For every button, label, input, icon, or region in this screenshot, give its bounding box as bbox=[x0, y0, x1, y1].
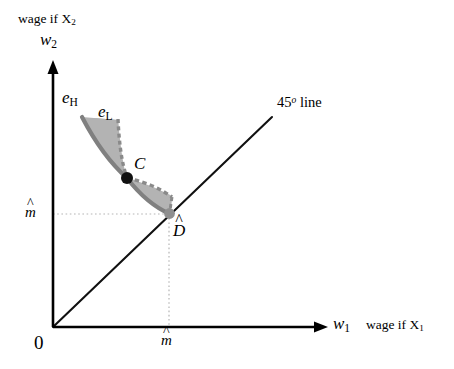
line45-suffix: line bbox=[296, 94, 321, 110]
x-axis-caption-subscript: 1 bbox=[419, 323, 424, 333]
curve-label-eh: eH bbox=[62, 89, 78, 108]
origin-label: 0 bbox=[34, 333, 44, 352]
diagram-svg bbox=[0, 0, 454, 369]
point-label-d-hat: ^D bbox=[173, 222, 185, 239]
x-axis-tick-label-m-hat: ^m bbox=[161, 333, 172, 348]
x-axis-arrowhead bbox=[314, 322, 328, 333]
y-axis-tick-label-m-hat: ^m bbox=[25, 205, 36, 220]
m-hat-x-accent: ^ bbox=[161, 324, 172, 338]
d-hat-accent: ^ bbox=[173, 212, 185, 228]
curve-label-eh-subscript: H bbox=[70, 96, 78, 109]
y-axis-caption-subscript: 2 bbox=[71, 17, 76, 27]
figure-canvas: wage if X2 w2 w1 wage if X1 0 eH eL C ^D… bbox=[0, 0, 454, 369]
curve-label-el: eL bbox=[98, 103, 113, 122]
m-hat-y-accent: ^ bbox=[25, 196, 36, 210]
y-axis-symbol-subscript: 2 bbox=[51, 38, 57, 51]
y-axis-arrowhead bbox=[48, 60, 59, 74]
x-axis-symbol-subscript: 1 bbox=[344, 322, 350, 335]
x-axis-caption: wage if X1 bbox=[366, 318, 424, 333]
y-axis-caption: wage if X2 bbox=[18, 12, 76, 27]
point-c-dot bbox=[121, 172, 133, 184]
y-axis-symbol: w2 bbox=[40, 31, 57, 50]
curve-label-el-subscript: L bbox=[106, 110, 113, 123]
forty-five-degree-line bbox=[53, 117, 272, 327]
point-label-c: C bbox=[134, 155, 145, 172]
x-axis-symbol: w1 bbox=[333, 315, 350, 334]
forty-five-degree-line-label: 45o line bbox=[277, 95, 322, 110]
